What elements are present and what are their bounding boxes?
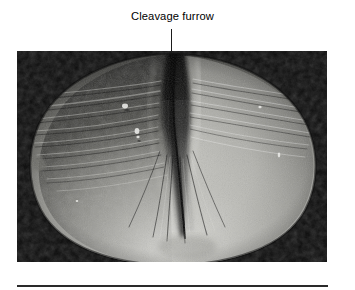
cleavage-furrow-label-text: Cleavage furrow (131, 10, 214, 22)
bottom-rule (17, 285, 328, 287)
cleavage-furrow-label: Cleavage furrow (0, 10, 355, 23)
leader-line (171, 29, 172, 52)
micrograph-image (17, 51, 327, 262)
figure-root: Cleavage furrow (0, 0, 355, 290)
